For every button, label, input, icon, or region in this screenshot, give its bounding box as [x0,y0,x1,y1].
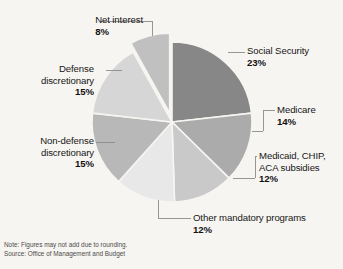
pie-label-other-mandatory-name: Other mandatory programs [193,212,306,224]
pie-label-net-interest-name: Net interest [95,14,143,26]
pie-label-medicaid-chip-aca: Medicaid, CHIP, ACA subsidies 12% [259,150,326,185]
pie-label-medicaid-line1: Medicaid, CHIP, [259,150,326,162]
pie-label-net-interest-value: 8% [95,26,143,38]
pie-slice-social-security[interactable] [172,42,252,122]
pie-label-defense-line1: Defense [41,63,94,75]
leader-line-medicare [252,110,275,131]
pie-label-medicare: Medicare 14% [277,104,316,127]
pie-label-non-defense-discretionary: Non-defense discretionary 15% [40,135,94,170]
pie-label-non-defense-line2: discretionary [40,147,94,159]
footnote-note: Note: Figures may not add due to roundin… [4,241,127,250]
pie-chart-figure: Social Security 23% Medicare 14% Medicai… [0,0,343,269]
pie-label-defense-discretionary: Defense discretionary 15% [41,63,94,98]
pie-label-other-mandatory-value: 12% [193,224,306,236]
footnote-source: Source: Office of Management and Budget [4,250,127,259]
pie-label-non-defense-value: 15% [40,158,94,170]
pie-label-other-mandatory: Other mandatory programs 12% [193,212,306,235]
pie-label-social-security: Social Security 23% [247,45,309,68]
pie-label-non-defense-line1: Non-defense [40,135,94,147]
pie-label-social-security-name: Social Security [247,45,309,57]
pie-label-medicaid-line2: ACA subsidies [259,162,326,174]
pie-label-net-interest: Net interest 8% [95,14,143,37]
pie-label-defense-value: 15% [41,86,94,98]
pie-label-medicare-name: Medicare [277,104,316,116]
pie-label-social-security-value: 23% [247,57,309,69]
chart-footnote: Note: Figures may not add due to roundin… [4,241,127,258]
pie-label-medicare-value: 14% [277,116,316,128]
pie-label-medicaid-value: 12% [259,173,326,185]
pie-label-defense-line2: discretionary [41,75,94,87]
